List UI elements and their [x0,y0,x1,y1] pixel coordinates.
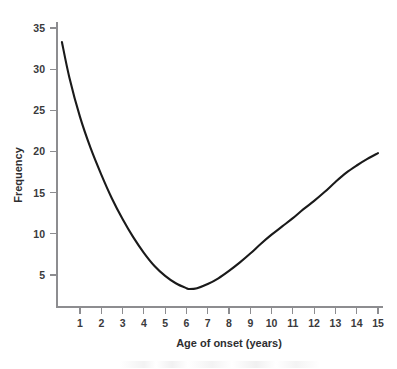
y-axis-title: Frequency [12,146,24,203]
x-tick-label: 13 [330,317,342,329]
y-tick-label: 15 [33,187,45,199]
y-axis-ticks [50,28,57,275]
x-tick-label: 3 [120,317,126,329]
x-axis-tick-labels: 1 2 3 4 5 6 7 8 9 10 11 12 13 14 15 [77,317,384,329]
x-tick-label: 4 [141,317,147,329]
y-tick-label: 20 [33,145,45,157]
x-tick-label: 6 [183,317,189,329]
x-tick-label: 8 [226,317,232,329]
y-tick-label: 35 [33,22,45,34]
x-axis-ticks [80,307,378,314]
y-tick-label: 5 [39,269,45,281]
x-tick-label: 5 [162,317,168,329]
x-axis-title: Age of onset (years) [176,337,282,349]
y-axis-tick-labels: 35 30 25 20 15 10 5 [33,22,45,281]
frequency-curve [62,42,378,289]
x-tick-label: 11 [287,317,298,329]
axis-lines [57,22,383,307]
x-tick-label: 2 [98,317,104,329]
frequency-vs-age-line-chart: 35 30 25 20 15 10 5 1 [0,0,397,369]
y-tick-label: 30 [33,63,45,75]
x-tick-label: 1 [77,317,83,329]
x-tick-label: 10 [266,317,278,329]
x-tick-label: 7 [205,317,211,329]
x-tick-label: 12 [308,317,320,329]
chart-figure: 35 30 25 20 15 10 5 1 [0,0,397,369]
y-tick-label: 10 [33,228,45,240]
x-tick-label: 9 [247,317,253,329]
x-tick-label: 14 [351,317,363,329]
y-tick-label: 25 [33,104,45,116]
x-tick-label: 15 [372,317,384,329]
page-footer-artifact [120,361,320,368]
